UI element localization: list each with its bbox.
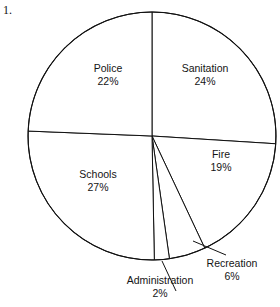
pie-chart-figure: 1. Police 22% Sanitation 24% Fire 19%	[0, 0, 280, 307]
slice-label-fire-name: Fire	[212, 148, 230, 160]
slice-label-administration-name: Administration	[127, 274, 194, 286]
slice-label-police-name: Police	[94, 62, 123, 74]
slice-label-administration-value: 2%	[100, 287, 220, 300]
pie-slices	[28, 12, 276, 260]
slice-label-sanitation-value: 24%	[139, 75, 271, 88]
slice-label-fire-value: 19%	[181, 161, 261, 174]
slice-label-sanitation-name: Sanitation	[182, 62, 229, 74]
slice-label-schools: Schools 27%	[50, 168, 146, 193]
slice-label-fire: Fire 19%	[181, 148, 261, 173]
pie-slice-schools[interactable]	[28, 131, 154, 260]
slice-label-schools-name: Schools	[79, 168, 116, 180]
slice-label-recreation-name: Recreation	[207, 257, 258, 269]
slice-label-schools-value: 27%	[50, 181, 146, 194]
slice-label-administration: Administration 2%	[100, 274, 220, 299]
slice-label-sanitation: Sanitation 24%	[139, 62, 271, 87]
